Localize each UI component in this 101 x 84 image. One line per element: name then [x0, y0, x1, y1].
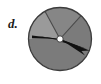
figure-container: d. [0, 0, 101, 84]
spinner-svg [27, 5, 95, 73]
spinner-diagram [27, 5, 95, 73]
spinner-hub [57, 36, 63, 42]
part-label: d. [8, 17, 18, 30]
